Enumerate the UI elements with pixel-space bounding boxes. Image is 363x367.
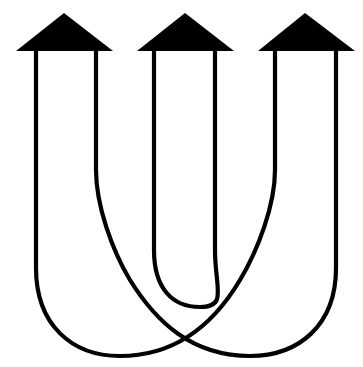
logo-canvas	[0, 0, 363, 367]
background-rect	[0, 0, 363, 367]
logo-artwork	[0, 0, 363, 367]
arrowheads-group	[16, 13, 355, 51]
